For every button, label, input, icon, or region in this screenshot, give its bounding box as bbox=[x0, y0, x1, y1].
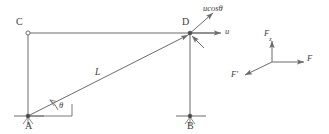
force-label-F: F bbox=[307, 54, 312, 63]
point-label-C: C bbox=[16, 17, 23, 27]
length-label-L: L bbox=[95, 68, 100, 78]
joint-marker-C bbox=[26, 31, 30, 35]
point-label-A: A bbox=[25, 121, 32, 131]
joint-marker-B bbox=[188, 114, 192, 118]
mechanism-diagram bbox=[0, 0, 329, 134]
force-F-prime-arrow bbox=[245, 62, 272, 75]
point-label-B: B bbox=[187, 121, 194, 131]
velocity-label-u: u bbox=[225, 27, 229, 36]
velocity-label-ucos-theta: ucosθ bbox=[203, 4, 223, 13]
joint-marker-D bbox=[188, 31, 192, 35]
velocity-component-into-D-arrow bbox=[192, 36, 204, 48]
force-label-F-prime: F' bbox=[231, 70, 238, 79]
angle-label-theta: θ bbox=[59, 101, 63, 110]
force-label-Fz-subscript: z bbox=[269, 36, 271, 42]
point-label-D: D bbox=[182, 17, 189, 27]
force-label-Fz: Fz bbox=[264, 29, 272, 40]
figure-canvas: C D A B L θ u ucosθ F Fz F' bbox=[0, 0, 329, 134]
member-AD-rod bbox=[28, 35, 188, 116]
joint-marker-A bbox=[26, 114, 30, 118]
